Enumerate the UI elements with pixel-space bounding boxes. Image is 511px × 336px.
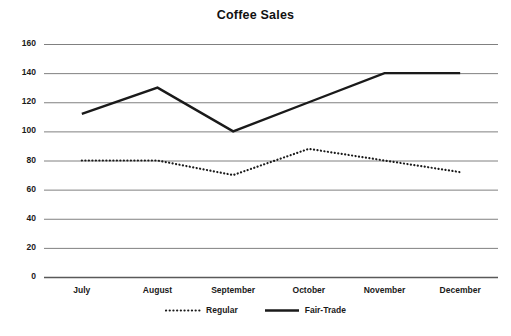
y-axis-tick-label: 120 [2, 97, 36, 106]
chart-legend: RegularFair-Trade [0, 305, 511, 315]
legend-item-regular[interactable]: Regular [165, 305, 238, 315]
y-axis-tick-label: 60 [2, 185, 36, 194]
series-line-regular [82, 149, 460, 175]
x-axis-tick-label: December [420, 285, 500, 295]
y-axis-tick-label: 40 [2, 214, 36, 223]
legend-item-fair-trade[interactable]: Fair-Trade [264, 305, 346, 315]
y-axis-tick-label: 140 [2, 68, 36, 77]
data-series-lines [82, 73, 460, 175]
legend-swatch-solid-line-icon [264, 305, 300, 315]
coffee-sales-line-chart: Coffee Sales 160140120100806040200 JulyA… [0, 0, 511, 336]
y-axis-tick-label: 80 [2, 156, 36, 165]
x-axis-tick-label: July [42, 285, 122, 295]
y-axis-tick-label: 20 [2, 243, 36, 252]
y-axis-tick-label: 0 [2, 272, 36, 281]
y-axis-tick-label: 100 [2, 126, 36, 135]
legend-label: Fair-Trade [305, 305, 346, 315]
legend-label: Regular [206, 305, 238, 315]
legend-swatch-dotted-line-icon [165, 305, 201, 315]
x-axis-tick-label: September [193, 285, 273, 295]
y-axis-tick-label: 160 [2, 39, 36, 48]
x-axis-tick-label: August [118, 285, 198, 295]
x-axis-tick-label: October [269, 285, 349, 295]
x-axis-tick-label: November [345, 285, 425, 295]
